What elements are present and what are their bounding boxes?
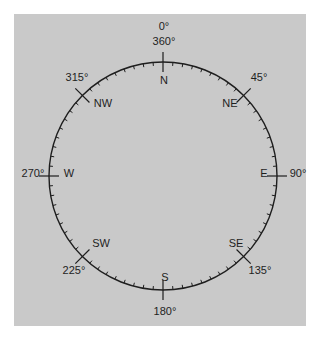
label-nw: NW [94,97,113,109]
label-315-deg: 315° [66,71,89,83]
label-180-deg: 180° [154,305,177,317]
label-225-deg: 225° [63,264,86,276]
label-se: SE [229,237,244,249]
cardinal-markers [39,52,287,300]
label-s: S [161,271,168,283]
label-w: W [64,167,75,179]
label-sw: SW [92,237,110,249]
label-360-deg: 360° [153,35,176,47]
label-ne: NE [222,97,237,109]
compass-diagram: 0° 360° N 45° NE E 90° SE 135° S 180° SW… [0,0,321,342]
label-90-deg: 90° [290,167,307,179]
label-45-deg: 45° [251,71,268,83]
label-270-deg: 270° [22,167,45,179]
label-n: N [160,74,168,86]
label-e: E [260,167,267,179]
label-135-deg: 135° [249,264,272,276]
label-0-deg: 0° [159,20,170,32]
